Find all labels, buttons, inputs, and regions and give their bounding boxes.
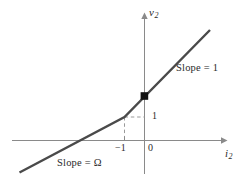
- operating-point-marker: [141, 92, 149, 100]
- x-axis-label-symbol: i: [225, 147, 228, 159]
- y-axis-label-subscript: 2: [154, 11, 158, 20]
- x-axis-label: i2: [225, 148, 233, 161]
- x-tick-label-minus-one: −1: [115, 143, 126, 153]
- x-axis-label-subscript: 2: [229, 152, 233, 161]
- y-axis-label: v2: [149, 7, 158, 20]
- guide-lines: [125, 117, 145, 140]
- slope-lower-annotation: Slope = Ω: [57, 158, 102, 169]
- y-axis-arrowhead: [141, 13, 147, 20]
- slope-upper-annotation: Slope = 1: [176, 63, 218, 74]
- figure-container: v2 i2 Slope = 1 Slope = Ω 1 −1 0: [0, 0, 238, 186]
- x-tick-label-origin: 0: [148, 143, 153, 153]
- y-tick-label-one: 1: [152, 111, 157, 121]
- plot-canvas: [0, 0, 238, 186]
- x-axis-arrowhead: [221, 137, 228, 143]
